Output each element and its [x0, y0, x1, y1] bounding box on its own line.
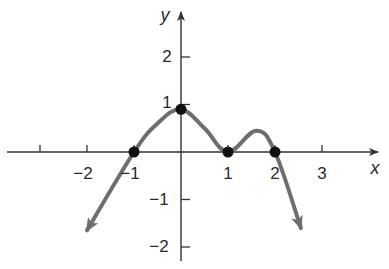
axes — [7, 12, 378, 261]
y-tick-label: 2 — [162, 47, 171, 67]
x-tick-label: −2 — [73, 164, 92, 184]
x-tick-label: 2 — [270, 164, 279, 184]
x-tick-label: −1 — [120, 164, 139, 184]
x-axis-label: x — [371, 158, 380, 179]
x-tick-label: 1 — [223, 164, 232, 184]
function-curve — [87, 109, 301, 230]
y-tick-label: 1 — [162, 93, 171, 113]
y-tick-label: −2 — [149, 237, 168, 257]
data-point — [176, 104, 187, 115]
y-axis-label: y — [161, 5, 170, 26]
x-tick-label: 3 — [317, 164, 326, 184]
data-point — [129, 147, 140, 158]
data-point — [223, 147, 234, 158]
data-point — [270, 147, 281, 158]
y-tick-label: −1 — [149, 190, 168, 210]
function-graph — [0, 0, 389, 269]
